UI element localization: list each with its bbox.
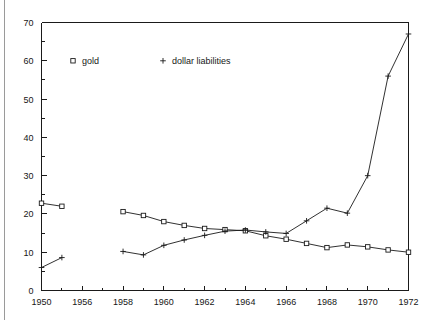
data-point-marker-plus — [59, 255, 65, 261]
x-tick-label: 1956 — [72, 297, 92, 307]
data-point-marker-square — [39, 201, 43, 205]
data-point-marker-square — [325, 245, 329, 249]
data-point-marker-plus — [345, 210, 351, 216]
y-tick-label: 40 — [23, 133, 33, 143]
x-axis-tick-labels: 1950195619581960196219641966196819701972 — [31, 297, 418, 307]
data-point-marker-square — [182, 223, 186, 227]
line-chart: 010203040506070 195019561958196019621964… — [0, 0, 433, 320]
y-tick-label: 70 — [23, 18, 33, 28]
data-point-marker-plus — [181, 237, 187, 243]
x-tick-label: 1950 — [31, 297, 51, 307]
x-tick-label: 1972 — [398, 297, 418, 307]
x-tick-label: 1964 — [235, 297, 255, 307]
data-point-marker-plus — [160, 58, 166, 64]
series-polyline — [42, 203, 62, 206]
data-point-marker-plus — [202, 233, 208, 239]
data-point-marker-plus — [406, 31, 412, 37]
data-point-marker-square — [345, 243, 349, 247]
legend-label-dollar-liabilities: dollar liabilities — [172, 56, 231, 66]
series-gold — [39, 201, 410, 254]
data-point-marker-plus — [304, 218, 310, 224]
y-tick-label: 30 — [23, 171, 33, 181]
x-tick-label: 1966 — [276, 297, 296, 307]
x-tick-label: 1970 — [358, 297, 378, 307]
data-point-marker-plus — [161, 243, 167, 249]
y-tick-label: 60 — [23, 56, 33, 66]
y-tick-label: 0 — [28, 286, 33, 296]
x-tick-label: 1960 — [154, 297, 174, 307]
data-point-marker-square — [202, 226, 206, 230]
data-point-marker-plus — [39, 265, 45, 271]
data-point-marker-square — [284, 237, 288, 241]
y-tick-label: 10 — [23, 248, 33, 258]
series-dollar-liabilities — [39, 31, 412, 270]
data-point-marker-plus — [141, 252, 147, 258]
data-point-marker-plus — [324, 205, 330, 211]
chart-page: 010203040506070 195019561958196019621964… — [0, 0, 433, 320]
x-tick-label: 1968 — [317, 297, 337, 307]
y-axis-tick-labels: 010203040506070 — [23, 18, 33, 296]
y-tick-label: 20 — [23, 209, 33, 219]
y-tick-label: 50 — [23, 95, 33, 105]
data-point-marker-square — [71, 59, 75, 63]
data-point-marker-plus — [283, 231, 289, 237]
x-tick-label: 1958 — [113, 297, 133, 307]
data-point-marker-square — [162, 219, 166, 223]
data-point-marker-square — [386, 248, 390, 252]
data-point-marker-plus — [365, 173, 371, 179]
data-point-marker-square — [304, 241, 308, 245]
series-polyline — [42, 258, 62, 268]
y-axis-ticks — [42, 23, 47, 291]
data-point-marker-plus — [385, 73, 391, 79]
data-point-marker-square — [60, 204, 64, 208]
data-point-marker-square — [366, 245, 370, 249]
data-point-marker-square — [141, 213, 145, 217]
data-point-marker-plus — [120, 249, 126, 255]
data-point-marker-square — [121, 209, 125, 213]
legend-label-gold: gold — [82, 56, 99, 66]
chart-legend: golddollar liabilities — [71, 56, 231, 66]
data-point-marker-square — [406, 250, 410, 254]
x-tick-label: 1962 — [195, 297, 215, 307]
